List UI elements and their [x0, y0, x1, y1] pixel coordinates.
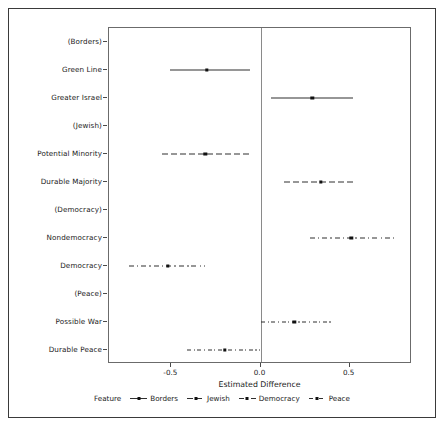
estimate-point [166, 264, 169, 267]
error-bar-interval [271, 95, 353, 102]
y-axis-tick [103, 41, 107, 42]
confidence-interval-line [170, 70, 250, 71]
legend-item[interactable]: Peace [309, 394, 350, 403]
y-axis-label: (Borders) [68, 37, 102, 46]
y-axis-label: (Democracy) [54, 205, 102, 214]
error-bar-interval [310, 235, 394, 242]
plot-area [109, 28, 410, 362]
legend-item[interactable]: Jewish [187, 394, 230, 403]
legend-title: Feature [94, 394, 121, 403]
figure-container: (Borders)Green LineGreater Israel(Jewish… [0, 0, 446, 439]
estimate-point [293, 320, 296, 323]
x-axis-tick-label: 0.5 [343, 368, 354, 377]
y-axis-label: Durable Peace [49, 345, 102, 354]
x-axis-tick [349, 363, 350, 367]
y-axis-label: Nondemocracy [47, 233, 102, 242]
y-axis-tick [103, 181, 107, 182]
y-axis-label: Green Line [62, 65, 102, 74]
y-axis-label: Democracy [60, 261, 102, 270]
y-axis-tick [103, 265, 107, 266]
error-bar-interval [129, 263, 206, 270]
estimate-point [205, 68, 208, 71]
legend-item[interactable]: Borders [130, 394, 178, 403]
zero-reference-line [261, 28, 262, 362]
y-axis-tick [103, 349, 107, 350]
y-axis-tick [103, 125, 107, 126]
estimate-point [310, 96, 313, 99]
plot-panel [108, 27, 411, 363]
estimate-point [319, 180, 322, 183]
error-bar-interval [162, 151, 251, 158]
legend-item-label: Jewish [207, 394, 230, 403]
x-axis-title: Estimated Difference [108, 380, 411, 389]
y-axis-label: Possible War [56, 317, 102, 326]
confidence-interval-line [261, 322, 332, 323]
y-axis-tick [103, 237, 107, 238]
y-axis-tick [103, 69, 107, 70]
y-axis-tick [103, 153, 107, 154]
y-axis-tick [103, 293, 107, 294]
legend-key-icon [130, 395, 147, 402]
legend-key-icon [239, 395, 256, 402]
legend: Feature BordersJewishDemocracyPeace [8, 394, 436, 403]
x-axis-tick [170, 363, 171, 367]
error-bar-interval [284, 179, 355, 186]
x-axis-tick-label: -0.5 [163, 368, 177, 377]
y-axis-tick [103, 209, 107, 210]
y-axis-label: (Jewish) [73, 121, 102, 130]
error-bar-interval [261, 319, 332, 326]
x-axis-tick [260, 363, 261, 367]
y-axis-labels: (Borders)Green LineGreater Israel(Jewish… [0, 27, 102, 363]
error-bar-interval [170, 67, 250, 74]
legend-item-label: Democracy [259, 394, 300, 403]
confidence-interval-line [162, 154, 251, 155]
y-axis-label: Durable Majority [41, 177, 102, 186]
y-axis-tick [103, 97, 107, 98]
estimate-point [350, 236, 353, 239]
y-axis-tick [103, 321, 107, 322]
y-axis-label: (Peace) [74, 289, 102, 298]
estimate-point [204, 152, 207, 155]
legend-item-label: Peace [329, 394, 350, 403]
x-axis-tick-label: 0.0 [254, 368, 265, 377]
estimate-point [223, 348, 226, 351]
legend-item[interactable]: Democracy [239, 394, 300, 403]
legend-item-label: Borders [150, 394, 178, 403]
legend-key-icon [309, 395, 326, 402]
y-axis-label: Greater Israel [51, 93, 102, 102]
y-axis-label: Potential Minority [37, 149, 102, 158]
error-bar-interval [187, 347, 260, 354]
legend-key-icon [187, 395, 204, 402]
